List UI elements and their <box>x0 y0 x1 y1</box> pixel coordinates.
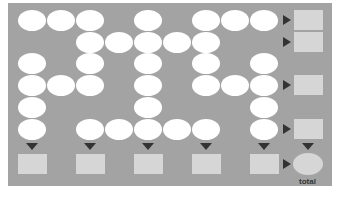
dot <box>250 119 278 140</box>
arrow-down-icon <box>26 143 38 150</box>
column-sum-box <box>18 154 47 174</box>
column-sum-box <box>192 154 221 174</box>
row-sum-box <box>294 10 323 30</box>
dot <box>134 53 162 74</box>
dot <box>134 10 162 31</box>
total-circle <box>293 153 323 175</box>
dot <box>47 75 75 96</box>
dot <box>18 53 46 74</box>
dot <box>163 32 191 53</box>
dot <box>221 75 249 96</box>
dot <box>250 97 278 118</box>
dot <box>221 10 249 31</box>
dot <box>134 32 162 53</box>
column-sum-box <box>134 154 163 174</box>
dot <box>18 119 46 140</box>
arrow-right-icon <box>283 37 291 47</box>
dot <box>105 119 133 140</box>
dot <box>192 75 220 96</box>
arrow-down-icon <box>200 143 212 150</box>
column-sum-box <box>76 154 105 174</box>
row-sum-box <box>294 119 323 139</box>
dot <box>134 119 162 140</box>
arrow-down-icon <box>84 143 96 150</box>
dot <box>76 75 104 96</box>
dot <box>192 10 220 31</box>
arrow-right-icon <box>283 159 291 169</box>
arrow-right-icon <box>283 124 291 134</box>
dot <box>76 119 104 140</box>
dot <box>250 53 278 74</box>
dot <box>76 32 104 53</box>
arrow-down-icon <box>258 143 270 150</box>
arrow-right-icon <box>283 15 291 25</box>
arrow-down-icon <box>142 143 154 150</box>
row-sum-box <box>294 32 323 52</box>
dot <box>18 75 46 96</box>
arrow-right-icon <box>283 80 291 90</box>
dot <box>18 10 46 31</box>
dot <box>76 10 104 31</box>
dot <box>105 32 133 53</box>
dot <box>192 53 220 74</box>
dot <box>134 75 162 96</box>
dot <box>250 10 278 31</box>
dot <box>76 53 104 74</box>
total-label: total <box>299 177 316 186</box>
dot <box>47 10 75 31</box>
column-sum-box <box>250 154 279 174</box>
arrow-down-icon <box>302 143 314 150</box>
dot <box>192 119 220 140</box>
dot <box>250 75 278 96</box>
dot <box>134 97 162 118</box>
dot <box>163 119 191 140</box>
row-sum-box <box>294 75 323 95</box>
dot <box>18 97 46 118</box>
dot <box>192 32 220 53</box>
